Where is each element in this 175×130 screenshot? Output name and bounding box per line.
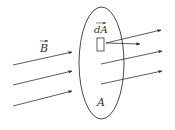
area-element-rect <box>97 38 104 51</box>
field-label-B: B <box>39 41 48 55</box>
field-line-arrow <box>106 30 161 43</box>
flux-diagram: B dA A <box>0 0 175 130</box>
field-line-arrow <box>13 91 72 106</box>
field-line-arrow <box>13 71 72 85</box>
area-element-label: dA <box>94 23 108 35</box>
field-line-arrow <box>101 51 162 64</box>
field-line-arrow <box>101 71 162 84</box>
field-label-text: B <box>39 42 48 55</box>
area-element-label-text: dA <box>94 24 108 35</box>
outgoing-field-lines <box>101 30 162 84</box>
normal-vector-arrow <box>106 43 140 44</box>
incoming-field-lines <box>13 52 72 106</box>
surface-label: A <box>96 96 105 109</box>
